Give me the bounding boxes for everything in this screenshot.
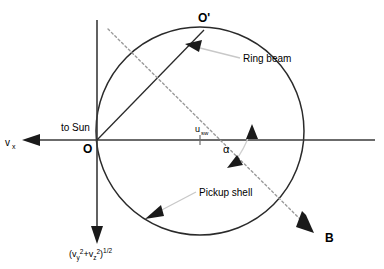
pickup-shell-label: Pickup shell	[199, 187, 252, 198]
ring-beam-leader-line	[196, 47, 240, 58]
y-axis-label-exponent: 1/2	[103, 247, 112, 254]
y-axis-label-sub2: z	[93, 254, 96, 261]
y-axis-arrowhead	[91, 226, 103, 244]
x-axis-arrowhead	[22, 134, 40, 146]
pickup-shell-leader-arrowhead	[145, 205, 164, 219]
y-axis-label-plus: +v	[83, 249, 93, 259]
angle-alpha-arrowhead-top	[246, 124, 258, 139]
solar-wind-speed-subscript: sw	[201, 130, 209, 136]
y-axis-label-sub1: y	[77, 254, 81, 262]
magnetic-field-label: B	[325, 231, 334, 245]
to-sun-label: to Sun	[61, 122, 90, 133]
pickup-ion-velocity-diagram: v x to Sun O O' u sw α Ring beam Pickup …	[0, 0, 384, 269]
ring-beam-label: Ring beam	[243, 53, 291, 64]
angle-alpha-label: α	[223, 143, 230, 155]
x-axis-label-subscript: x	[12, 143, 16, 150]
magnetic-field-arrowhead	[296, 211, 314, 233]
ring-beam-point-label: O'	[198, 11, 210, 25]
x-axis-label: v	[5, 137, 10, 148]
angle-alpha-arrowhead-bottom	[227, 155, 243, 168]
ring-beam-line	[97, 30, 204, 140]
solar-wind-speed-label: u	[195, 124, 200, 134]
origin-label: O	[83, 142, 92, 156]
y-axis-label-group: (vy2+vz2)1/2	[69, 247, 112, 262]
